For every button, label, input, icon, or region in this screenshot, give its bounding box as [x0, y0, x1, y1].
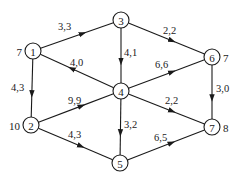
edge-line: [172, 60, 204, 72]
edge-label-3-6: 2,2: [163, 25, 176, 36]
node-1: 17: [17, 43, 42, 59]
edge-label-4-7: 2,2: [165, 95, 178, 106]
edge-label-6-7: 3,0: [216, 83, 229, 94]
edge-line: [82, 94, 114, 106]
node-label: 6: [209, 52, 215, 64]
node-5: 5: [112, 155, 128, 171]
node-4: 4: [113, 83, 129, 99]
node-3: 3: [113, 12, 129, 28]
node-label: 3: [118, 15, 124, 27]
edge-arrow-icon: [128, 72, 172, 88]
edge-label-1-3: 3,3: [58, 21, 71, 32]
node-label: 4: [118, 86, 124, 98]
nodes-layer: 172103456778: [9, 12, 229, 171]
edge-label-4-5: 3,2: [124, 119, 137, 130]
edge-line: [172, 111, 204, 124]
edge-label-1-2: 4,3: [11, 82, 24, 93]
edge-line: [83, 23, 114, 34]
node-label: 7: [209, 122, 215, 134]
edge-label-4-6: 6,6: [155, 59, 168, 70]
edge-label-2-4: 9,9: [68, 95, 81, 106]
edge-arrow-icon: [72, 69, 114, 88]
node-6: 67: [204, 49, 229, 65]
node-supply-demand-value: 7: [17, 46, 23, 58]
node-supply-demand-value: 8: [223, 122, 229, 134]
edge-arrow-icon: [41, 34, 83, 49]
edge-1-to-2: [31, 59, 33, 117]
edge-line: [40, 54, 71, 68]
network-flow-diagram: 3,34,04,34,12,26,69,92,23,23,04,36,5 172…: [0, 0, 246, 180]
edge-4-to-5: [120, 99, 121, 155]
edge-label-2-5: 4,3: [68, 129, 81, 140]
node-label: 1: [30, 46, 36, 58]
node-supply-demand-value: 10: [9, 120, 21, 132]
edge-label-4-1: 4,0: [70, 57, 83, 68]
edge-line: [172, 130, 205, 143]
edge-label-5-7: 6,5: [154, 132, 167, 143]
edge-arrow-icon: [32, 59, 33, 94]
edge-arrow-icon: [127, 143, 171, 160]
edge-line: [172, 41, 205, 54]
edge-arrow-icon: [38, 106, 81, 122]
edge-1-to-3: [41, 23, 114, 49]
node-label: 2: [28, 120, 34, 132]
node-7: 78: [204, 119, 229, 135]
edge-label-3-4: 4,1: [124, 47, 137, 58]
node-2: 210: [9, 117, 39, 133]
edge-line: [31, 94, 32, 117]
node-label: 5: [117, 158, 123, 170]
edge-line: [81, 146, 113, 160]
node-supply-demand-value: 7: [223, 52, 229, 64]
